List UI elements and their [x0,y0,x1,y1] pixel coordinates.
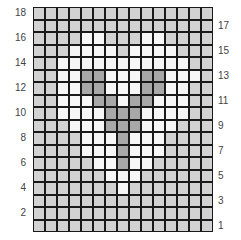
grid-cell [69,132,81,145]
grid-cell [165,207,177,220]
grid-cell [33,120,45,133]
grid-cell [141,145,153,158]
grid-cell [201,7,213,20]
grid-cell [93,45,105,58]
grid-cell [69,107,81,120]
grid-cell [105,82,117,95]
grid-cell [33,157,45,170]
grid-cell [117,32,129,45]
grid-cell [105,107,117,120]
grid-cell [105,120,117,133]
grid-cell [117,157,129,170]
grid-cell [81,82,93,95]
grid-cell [105,70,117,83]
row-label-left: 2 [10,207,26,219]
grid-cell [45,145,57,158]
grid-cell [81,95,93,108]
grid-cell [153,145,165,158]
grid-cell [189,32,201,45]
grid-cell [189,157,201,170]
grid-cell [69,7,81,20]
grid-cell [45,70,57,83]
grid-cell [153,207,165,220]
grid-cell [153,70,165,83]
grid-cell [81,57,93,70]
grid-cell [69,170,81,183]
grid-cell [57,170,69,183]
grid-cell [177,32,189,45]
grid-cell [45,45,57,58]
grid-cell [69,182,81,195]
grid-cell [93,32,105,45]
grid-cell [129,182,141,195]
grid-cell [105,132,117,145]
grid-cell [201,182,213,195]
grid-cell [93,95,105,108]
grid-cell [165,20,177,33]
row-label-right: 15 [218,45,234,57]
grid-cell [201,107,213,120]
grid-cell [141,32,153,45]
grid-cell [177,207,189,220]
grid-cell [45,157,57,170]
grid-cell [117,170,129,183]
grid-cell [129,32,141,45]
grid-cell [105,7,117,20]
knitting-chart-grid [33,7,213,232]
grid-cell [129,70,141,83]
grid-cell [141,157,153,170]
grid-cell [93,107,105,120]
grid-cell [33,7,45,20]
grid-cell [201,220,213,233]
grid-cell [45,132,57,145]
grid-cell [153,132,165,145]
grid-cell [129,170,141,183]
grid-cell [45,170,57,183]
grid-cell [57,145,69,158]
grid-cell [105,20,117,33]
grid-cell [153,220,165,233]
grid-cell [57,132,69,145]
grid-cell [69,220,81,233]
grid-cell [81,20,93,33]
grid-cell [57,57,69,70]
grid-cell [69,145,81,158]
grid-cell [57,20,69,33]
grid-cell [117,20,129,33]
grid-cell [33,220,45,233]
row-label-right: 13 [218,70,234,82]
grid-cell [117,45,129,58]
grid-cell [45,195,57,208]
grid-cell [201,32,213,45]
grid-cell [141,195,153,208]
grid-cell [93,145,105,158]
grid-cell [153,20,165,33]
grid-cell [201,57,213,70]
grid-cell [33,145,45,158]
grid-cell [177,132,189,145]
grid-cell [81,7,93,20]
grid-cell [189,170,201,183]
grid-cell [57,157,69,170]
row-label-left: 8 [10,132,26,144]
grid-cell [81,107,93,120]
grid-cell [177,145,189,158]
grid-cell [165,107,177,120]
grid-cell [117,220,129,233]
grid-cell [57,7,69,20]
grid-cell [189,70,201,83]
grid-cell [165,7,177,20]
grid-cell [81,207,93,220]
grid-cell [33,70,45,83]
grid-cell [141,7,153,20]
grid-cell [189,57,201,70]
row-label-right: 5 [218,170,234,182]
grid-cell [33,95,45,108]
grid-cell [201,70,213,83]
grid-cell [93,70,105,83]
grid-cell [129,107,141,120]
grid-cell [45,7,57,20]
grid-cell [93,220,105,233]
grid-cell [177,170,189,183]
grid-cell [177,182,189,195]
